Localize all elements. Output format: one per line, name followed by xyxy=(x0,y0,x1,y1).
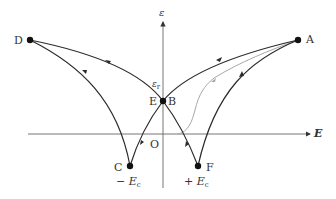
neg-coercive-field-label: − Ec xyxy=(116,176,141,189)
remanent-strain-label: εr xyxy=(152,80,160,91)
label-C: C xyxy=(114,162,122,173)
curve-E-to-C xyxy=(130,101,163,166)
point-F xyxy=(195,163,201,169)
curve-A-to-F xyxy=(198,40,298,166)
curve-C-to-D xyxy=(30,40,130,166)
arrow-icon xyxy=(140,140,144,145)
point-C xyxy=(127,163,133,169)
y-axis-label: ε xyxy=(159,8,164,18)
label-E: E xyxy=(149,96,157,107)
arrow-icon xyxy=(216,57,222,62)
point-A xyxy=(295,37,301,43)
label-B: B xyxy=(168,96,176,107)
arrow-icon xyxy=(82,70,87,74)
label-A: A xyxy=(306,34,314,45)
pos-coercive-field-label: + Ec xyxy=(184,176,209,189)
label-D: D xyxy=(14,35,23,46)
x-axis-label: E xyxy=(314,128,322,139)
point-D xyxy=(27,37,33,43)
label-origin: O xyxy=(150,139,159,150)
curve-D-to-E xyxy=(30,40,163,101)
initial-poling-curve xyxy=(178,40,298,134)
point-B-E xyxy=(160,98,166,104)
label-F: F xyxy=(206,162,214,173)
